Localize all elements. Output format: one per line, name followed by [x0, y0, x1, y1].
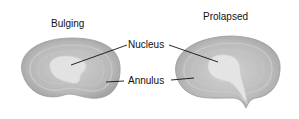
- disc-diagram: Bulging Prolapsed Nucleus Annulus: [0, 0, 299, 119]
- bulging-disc: [22, 38, 121, 98]
- prolapsed-disc: [176, 36, 281, 108]
- label-annulus: Annulus: [128, 76, 164, 86]
- disc-illustrations: [0, 0, 299, 119]
- title-bulging: Bulging: [51, 19, 84, 29]
- title-prolapsed: Prolapsed: [203, 12, 248, 22]
- label-nucleus: Nucleus: [128, 40, 164, 50]
